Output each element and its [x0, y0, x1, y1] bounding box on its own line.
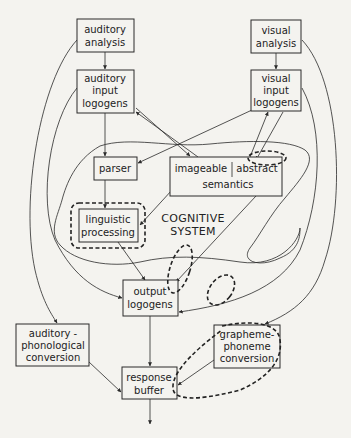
svg-text:visual: visual — [261, 25, 290, 36]
svg-text:imageable: imageable — [175, 163, 228, 174]
node-response-buffer: response buffer — [122, 367, 177, 399]
svg-text:input: input — [263, 85, 289, 96]
svg-text:visual: visual — [261, 73, 290, 84]
svg-text:conversion: conversion — [26, 352, 81, 363]
svg-text:COGNITIVE: COGNITIVE — [161, 212, 224, 225]
svg-text:phonological: phonological — [21, 340, 85, 351]
svg-text:semantics: semantics — [203, 179, 254, 190]
node-auditory-analysis: auditory analysis — [77, 19, 134, 52]
svg-text:analysis: analysis — [256, 38, 297, 49]
svg-text:processing: processing — [81, 227, 135, 238]
svg-text:output: output — [134, 286, 167, 297]
svg-text:response: response — [126, 372, 171, 383]
label-cognitive-system: COGNITIVE SYSTEM — [161, 212, 224, 238]
arrow-semantics-to-output — [176, 196, 256, 282]
svg-text:parser: parser — [99, 163, 132, 174]
svg-text:logogens: logogens — [127, 299, 172, 310]
node-semantics: imageable abstract semantics — [170, 157, 282, 196]
svg-text:auditory: auditory — [84, 24, 126, 35]
svg-text:analysis: analysis — [85, 37, 126, 48]
arrow-vil-to-abstract — [256, 112, 283, 160]
svg-text:phoneme: phoneme — [223, 341, 270, 352]
node-auditory-phonological-conversion: auditory - phonological conversion — [16, 324, 89, 366]
node-visual-input-logogens: visual input logogens — [251, 70, 301, 111]
node-parser: parser — [94, 157, 137, 180]
arrow-apc-to-rb — [89, 362, 121, 392]
node-output-logogens: output logogens — [123, 280, 178, 316]
svg-text:input: input — [92, 85, 118, 96]
connector-auditory-input-to-output — [47, 88, 122, 298]
svg-text:auditory -: auditory - — [29, 328, 78, 339]
node-grapheme-phoneme-conversion: grapheme- phoneme conversion — [214, 325, 280, 368]
svg-text:logogens: logogens — [82, 98, 127, 109]
svg-text:grapheme-: grapheme- — [220, 329, 275, 340]
arrow-semantics-ail-b — [136, 112, 198, 157]
lesion-semantic-output — [163, 242, 197, 296]
svg-text:buffer: buffer — [134, 385, 165, 396]
node-auditory-input-logogens: auditory input logogens — [77, 70, 134, 113]
svg-text:conversion: conversion — [220, 353, 275, 364]
logogen-model-diagram: auditory analysis visual analysis audito… — [0, 0, 351, 438]
node-linguistic-processing: linguistic processing — [79, 209, 138, 242]
connector-visual-input-to-output — [179, 88, 317, 312]
svg-text:logogens: logogens — [253, 97, 298, 108]
svg-text:auditory: auditory — [84, 73, 126, 84]
svg-text:linguistic: linguistic — [86, 214, 131, 225]
svg-text:SYSTEM: SYSTEM — [170, 225, 216, 238]
node-visual-analysis: visual analysis — [251, 20, 301, 53]
connector-auditory-analysis-to-apc — [30, 40, 77, 323]
